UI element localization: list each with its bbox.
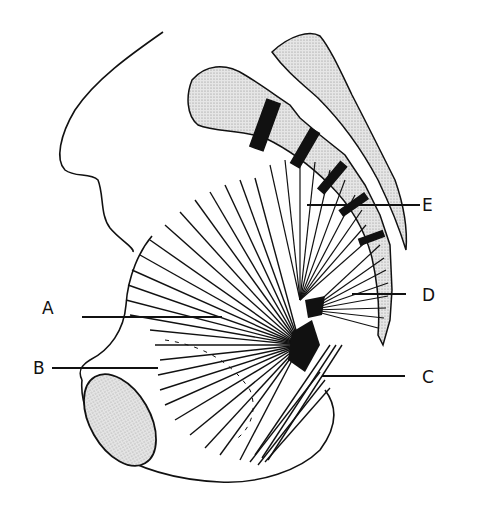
anatomical-diagram xyxy=(0,0,479,517)
label-a: A xyxy=(42,300,54,317)
label-d: D xyxy=(422,287,435,304)
label-c: C xyxy=(422,369,434,386)
label-e: E xyxy=(422,197,433,214)
muscle-origin-knot-upper xyxy=(305,296,325,318)
label-b: B xyxy=(33,360,45,377)
pubic-bone xyxy=(69,362,171,479)
muscle-origin-knot xyxy=(288,320,320,372)
